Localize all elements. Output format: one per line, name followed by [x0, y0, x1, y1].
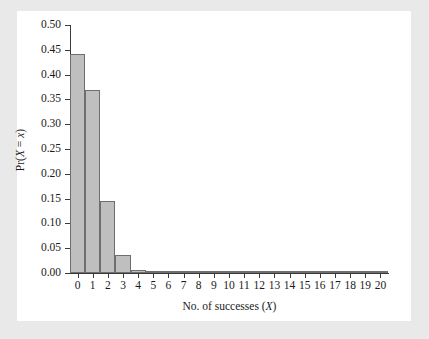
x-tick-label: 16: [314, 280, 326, 292]
y-tick-mark: [65, 124, 70, 125]
x-tick-label: 14: [284, 280, 296, 292]
x-tick-mark: [229, 273, 230, 278]
x-tick-mark: [168, 273, 169, 278]
y-tick-mark: [65, 223, 70, 224]
plot-area: 0.000.050.100.150.200.250.300.350.400.45…: [70, 25, 388, 273]
x-tick-mark: [305, 273, 306, 278]
x-tick-mark: [184, 273, 185, 278]
x-tick-mark: [244, 273, 245, 278]
y-tick-label: 0.50: [41, 19, 61, 31]
x-tick-mark: [335, 273, 336, 278]
y-tick-label: 0.25: [41, 143, 61, 155]
y-tick-mark: [65, 149, 70, 150]
x-axis-label-prefix: No. of successes (: [183, 300, 266, 312]
x-tick-label: 17: [329, 280, 341, 292]
x-tick-mark: [93, 273, 94, 278]
x-tick-label: 4: [135, 280, 141, 292]
x-axis-label-suffix: ): [273, 300, 277, 312]
x-tick-mark: [320, 273, 321, 278]
x-tick-mark: [108, 273, 109, 278]
x-tick-mark: [153, 273, 154, 278]
y-tick-label: 0.40: [41, 69, 61, 81]
y-axis-label-variable-x-lower: x: [14, 133, 26, 138]
x-tick-label: 2: [105, 280, 111, 292]
x-tick-mark: [380, 273, 381, 278]
y-tick-mark: [65, 273, 70, 274]
y-tick-label: 0.20: [41, 168, 61, 180]
x-tick-mark: [259, 273, 260, 278]
x-tick-label: 11: [239, 280, 250, 292]
x-tick-label: 12: [254, 280, 266, 292]
x-tick-label: 13: [269, 280, 281, 292]
x-tick-label: 15: [299, 280, 311, 292]
y-tick-label: 0.10: [41, 218, 61, 230]
x-tick-label: 1: [90, 280, 96, 292]
x-tick-mark: [123, 273, 124, 278]
bar: [115, 255, 130, 273]
x-tick-label: 3: [120, 280, 126, 292]
y-axis-label-equals: =: [14, 138, 26, 150]
x-tick-mark: [78, 273, 79, 278]
bar: [70, 54, 85, 273]
x-tick-label: 6: [166, 280, 172, 292]
x-tick-mark: [290, 273, 291, 278]
x-tick-label: 7: [181, 280, 187, 292]
x-tick-mark: [365, 273, 366, 278]
y-tick-label: 0.35: [41, 94, 61, 106]
bar: [100, 201, 115, 273]
y-tick-label: 0.15: [41, 193, 61, 205]
y-axis-label-suffix: ): [14, 129, 26, 133]
y-tick-label: 0.45: [41, 44, 61, 56]
y-tick-mark: [65, 25, 70, 26]
y-tick-mark: [65, 75, 70, 76]
y-tick-mark: [65, 174, 70, 175]
y-tick-mark: [65, 99, 70, 100]
y-axis-label: Pr(X = x): [14, 129, 26, 171]
x-tick-label: 5: [150, 280, 156, 292]
x-tick-mark: [199, 273, 200, 278]
x-tick-mark: [350, 273, 351, 278]
y-tick-mark: [65, 50, 70, 51]
chart-figure: 0.000.050.100.150.200.250.300.350.400.45…: [0, 0, 429, 339]
x-tick-label: 10: [223, 280, 235, 292]
x-tick-label: 9: [211, 280, 217, 292]
y-axis-label-prefix: Pr(: [14, 157, 26, 171]
x-tick-label: 18: [344, 280, 356, 292]
y-tick-label: 0.00: [41, 267, 61, 279]
y-tick-label: 0.30: [41, 118, 61, 130]
figure-page: 0.000.050.100.150.200.250.300.350.400.45…: [0, 0, 429, 339]
x-tick-label: 8: [196, 280, 202, 292]
y-tick-mark: [65, 199, 70, 200]
x-axis-label: No. of successes (X): [70, 300, 389, 312]
bar-series: [70, 25, 388, 273]
x-tick-mark: [274, 273, 275, 278]
y-axis-label-variable-x-upper: X: [14, 150, 26, 157]
x-tick-mark: [138, 273, 139, 278]
x-axis-label-variable: X: [266, 300, 273, 312]
y-tick-label: 0.05: [41, 242, 61, 254]
x-tick-mark: [214, 273, 215, 278]
x-tick-label: 20: [375, 280, 387, 292]
bar: [85, 90, 100, 273]
x-tick-label: 0: [75, 280, 81, 292]
y-tick-mark: [65, 248, 70, 249]
x-tick-label: 19: [360, 280, 372, 292]
